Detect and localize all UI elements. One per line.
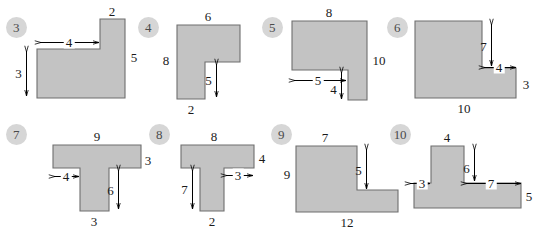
dimension-label: 7 (322, 131, 329, 144)
dimension-label: 2 (209, 215, 216, 228)
dimension-label: 5 (526, 190, 533, 203)
dimension-label: 10 (373, 54, 386, 67)
problem-badge-4: 4 (138, 17, 159, 38)
dimension-label: 3 (523, 78, 530, 91)
dimension-label: 5 (205, 74, 212, 87)
dimension-label: 3 (15, 67, 22, 80)
dimension-label: 9 (94, 130, 101, 143)
geometry-worksheet: 3245346852581054674310793463884372975912… (0, 0, 536, 234)
dimension-label: 4 (330, 83, 337, 96)
problem-badge-7: 7 (6, 124, 27, 145)
dimension-label: 3 (233, 168, 244, 181)
dimension-label: 12 (341, 216, 354, 229)
dimension-label: 6 (463, 162, 470, 175)
dimension-label: 7 (480, 40, 487, 53)
problem-badge-3: 3 (6, 17, 27, 38)
problem-badge-5: 5 (262, 17, 283, 38)
dimension-label: 7 (486, 176, 497, 189)
problem-badge-10: 10 (390, 124, 411, 145)
shape-10 (414, 146, 521, 208)
dimension-label: 8 (326, 6, 333, 19)
dimension-label: 6 (107, 184, 114, 197)
shape-9 (296, 146, 398, 212)
dimension-label: 4 (64, 35, 75, 48)
dimension-label: 3 (417, 176, 428, 189)
dimension-label: 4 (259, 152, 266, 165)
dimension-label: 5 (313, 73, 324, 86)
dimension-label: 2 (188, 103, 195, 116)
dimension-label: 4 (444, 131, 451, 144)
dimension-label: 3 (145, 154, 152, 167)
dimension-label: 6 (205, 10, 212, 23)
dimension-label: 5 (131, 51, 138, 64)
problem-badge-9: 9 (271, 124, 292, 145)
dimension-label: 9 (284, 168, 291, 181)
problem-badge-6: 6 (387, 17, 408, 38)
dimension-label: 8 (163, 54, 170, 67)
dimension-label: 5 (355, 164, 362, 177)
dimension-label: 3 (91, 215, 98, 228)
dimension-label: 7 (181, 183, 188, 196)
shape-4 (177, 25, 240, 99)
problem-badge-8: 8 (149, 124, 170, 145)
dimension-label: 8 (211, 130, 218, 143)
dimension-label: 4 (61, 169, 72, 182)
dimension-label: 10 (458, 102, 471, 115)
shape-3 (37, 19, 125, 98)
dimension-label: 2 (109, 5, 116, 18)
dimension-label: 4 (494, 60, 505, 73)
